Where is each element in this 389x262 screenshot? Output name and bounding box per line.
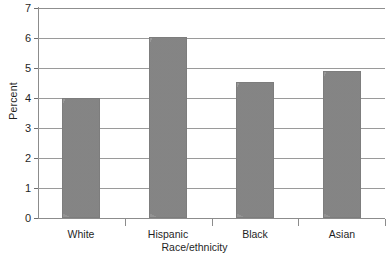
category-tick (125, 219, 126, 226)
y-axis-tick-label: 3 (25, 122, 31, 134)
bar (323, 71, 361, 218)
category-label: White (68, 228, 95, 240)
bar (149, 37, 187, 219)
y-axis-tick-mark (34, 128, 38, 129)
y-axis-tick-mark (34, 158, 38, 159)
y-axis-tick-mark (34, 218, 38, 219)
category-tick (385, 219, 386, 226)
y-axis-tick-label: 4 (25, 92, 31, 104)
y-axis-title: Percent (7, 61, 19, 141)
y-axis-tick-mark (34, 38, 38, 39)
y-axis-tick-label: 2 (25, 152, 31, 164)
bar-chart-figure: Percent 01234567 WhiteHispanicBlackAsian… (0, 0, 389, 262)
y-axis-tick-mark (34, 188, 38, 189)
y-axis-tick-label: 5 (25, 62, 31, 74)
category-label: Black (242, 228, 268, 240)
category-tick (212, 219, 213, 226)
y-axis-tick-mark (34, 68, 38, 69)
bar (236, 82, 274, 219)
gridline (38, 68, 385, 69)
category-label: Hispanic (148, 228, 188, 240)
y-axis-tick-label: 6 (25, 32, 31, 44)
x-axis-title: Race/ethnicity (0, 241, 389, 253)
gridline (38, 8, 385, 9)
bar (62, 98, 100, 218)
plot-area: 01234567 WhiteHispanicBlackAsian (38, 8, 385, 218)
y-axis-tick-label: 0 (25, 212, 31, 224)
y-axis-tick-label: 1 (25, 182, 31, 194)
gridline (38, 38, 385, 39)
y-axis-tick-mark (34, 98, 38, 99)
y-axis-tick-mark (34, 8, 38, 9)
y-axis-tick-label: 7 (25, 2, 31, 14)
category-tick (298, 219, 299, 226)
category-label: Asian (329, 228, 355, 240)
